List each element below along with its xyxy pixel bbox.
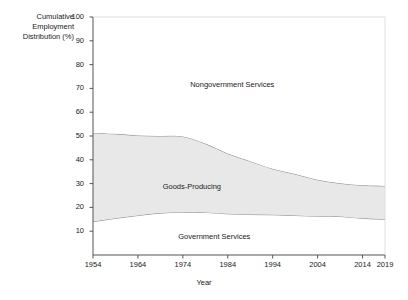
y-tick-label: 20 bbox=[64, 203, 84, 211]
x-tick-label: 1984 bbox=[219, 261, 236, 269]
x-tick-label: 1954 bbox=[85, 261, 102, 269]
y-tick-label: 10 bbox=[64, 227, 84, 235]
x-tick-label: 2019 bbox=[377, 261, 394, 269]
y-tick-label: 90 bbox=[64, 37, 84, 45]
band-label: Goods-Producing bbox=[163, 181, 221, 190]
band-label: Government Services bbox=[178, 231, 250, 240]
band-label: Nongovernment Services bbox=[190, 79, 274, 88]
x-tick-label: 1964 bbox=[130, 261, 147, 269]
y-tick-label: 70 bbox=[64, 84, 84, 92]
figure: Cumulative Employment Distribution (%) 1… bbox=[0, 0, 408, 300]
x-tick-label: 2014 bbox=[354, 261, 371, 269]
x-tick-label: 1994 bbox=[264, 261, 281, 269]
x-axis-title: Year bbox=[0, 278, 408, 287]
area-bands bbox=[93, 17, 385, 255]
y-tick-label: 80 bbox=[64, 61, 84, 69]
x-tick-label: 2004 bbox=[309, 261, 326, 269]
x-tick-label: 1974 bbox=[175, 261, 192, 269]
y-tick-label: 30 bbox=[64, 180, 84, 188]
y-tick-label: 100 bbox=[64, 13, 84, 21]
chart-plot-area bbox=[0, 0, 408, 300]
y-tick-label: 60 bbox=[64, 108, 84, 116]
y-tick-label: 50 bbox=[64, 132, 84, 140]
y-tick-label: 40 bbox=[64, 156, 84, 164]
